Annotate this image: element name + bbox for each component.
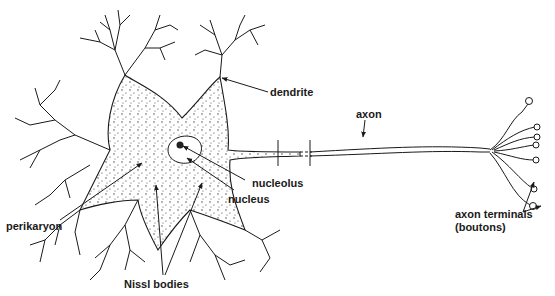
label-perikaryon: perikaryon: [6, 220, 62, 232]
label-nissl-bodies: Nissl bodies: [124, 278, 189, 290]
neuron-diagram: dendrite axon nucleolus nucleus perikary…: [0, 0, 555, 296]
axon-shape: [278, 104, 535, 205]
boutons: [526, 98, 541, 210]
nucleolus-dot: [177, 142, 184, 149]
label-axon-terminals: axon terminals: [455, 208, 533, 220]
cell-body: [80, 75, 300, 250]
label-boutons: (boutons): [455, 221, 506, 233]
label-axon: axon: [356, 108, 382, 120]
label-nucleolus: nucleolus: [252, 177, 303, 189]
neuron-drawing: [0, 0, 555, 296]
label-dendrite: dendrite: [270, 86, 313, 98]
label-nucleus: nucleus: [228, 193, 270, 205]
